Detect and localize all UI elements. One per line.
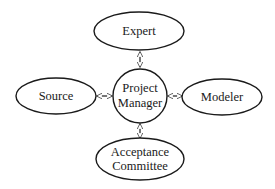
source-label: Source <box>39 89 74 103</box>
acceptance-committee-label-line1: Acceptance <box>111 145 170 159</box>
expert-label: Expert <box>122 24 156 38</box>
project-manager-label-line2: Manager <box>118 96 163 110</box>
diagram-canvas: Expert Project Manager Source Modeler Ac… <box>0 0 275 189</box>
node-project-manager: Project Manager <box>113 69 167 123</box>
node-acceptance-committee: Acceptance Committee <box>96 138 184 180</box>
node-source: Source <box>16 78 96 114</box>
modeler-label: Modeler <box>201 90 244 104</box>
node-expert: Expert <box>94 12 184 50</box>
project-manager-label-line1: Project <box>122 81 158 95</box>
acceptance-committee-label-line2: Committee <box>112 159 168 173</box>
node-modeler: Modeler <box>182 79 262 115</box>
